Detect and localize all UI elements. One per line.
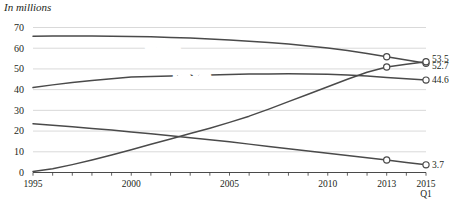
- x-axis-tick-sublabel: Q1: [420, 189, 432, 199]
- x-axis-tick-label: 2000: [122, 179, 141, 189]
- x-axis-tick-label: 2010: [318, 179, 337, 189]
- end-value-label-gen-xers: 44.6: [432, 75, 449, 85]
- x-axis-tick-label: 1995: [24, 179, 43, 189]
- series-end-value-labels: 53.552.744.63.7: [432, 54, 449, 170]
- y-axis-tick-label: 20: [14, 125, 24, 136]
- chart-container: In millions 010203040506070 199520002005…: [0, 0, 463, 199]
- series-label-silents: Silents: [71, 114, 97, 124]
- y-axis-tick-label: 60: [14, 43, 24, 54]
- y-axis-tick-label: 70: [14, 22, 24, 33]
- series-line-gen-xers: [33, 74, 426, 88]
- series-markers-group: [384, 54, 430, 168]
- series-line-silents: [33, 124, 426, 165]
- x-axis-tick-label: 2005: [220, 179, 239, 189]
- y-axis-tick-label: 50: [14, 63, 24, 74]
- data-point-marker-silents: [384, 157, 390, 163]
- series-label-millennials: Millennials: [212, 95, 256, 105]
- x-axis-tick-labels: 199520002005201020132015Q1: [24, 179, 436, 199]
- x-axis-tick-label: 2013: [377, 179, 396, 189]
- series-label-gen-xers: Gen Xers: [174, 72, 210, 82]
- y-axis-tick-label: 10: [14, 146, 24, 157]
- end-value-label-boomers: 52.7: [432, 61, 449, 71]
- series-label-boomers: Boomers: [146, 45, 181, 55]
- y-axis-tick-labels: 010203040506070: [14, 22, 24, 178]
- line-chart-plot: 010203040506070 199520002005201020132015…: [0, 0, 463, 199]
- series-inline-labels: BoomersGen XersMillennialsSilents: [71, 45, 255, 125]
- data-point-marker-millennials: [384, 64, 390, 70]
- y-axis-tick-label: 0: [19, 167, 24, 178]
- series-line-boomers: [33, 36, 426, 63]
- data-point-marker-silents: [423, 162, 429, 168]
- data-point-marker-millennials: [423, 59, 429, 65]
- y-axis-tick-label: 30: [14, 105, 24, 116]
- x-axis-group: [33, 173, 426, 176]
- data-point-marker-gen-xers: [423, 77, 429, 83]
- end-value-label-silents: 3.7: [432, 160, 444, 170]
- x-axis-tick-label: 2015: [417, 179, 436, 189]
- data-point-marker-boomers: [384, 54, 390, 60]
- y-axis-tick-label: 40: [14, 84, 24, 95]
